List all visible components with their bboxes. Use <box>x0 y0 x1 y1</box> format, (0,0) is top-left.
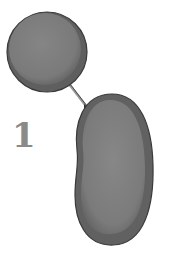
elongated-cell <box>75 94 153 245</box>
small-round-cell <box>7 12 87 92</box>
step-number-label: 1 <box>12 118 36 152</box>
